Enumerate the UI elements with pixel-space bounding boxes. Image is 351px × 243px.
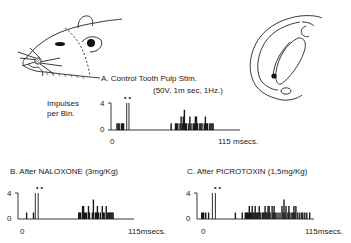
histogram-bar: [289, 213, 290, 220]
histogram-bar: [203, 213, 204, 220]
panel-a-params: (50V, 1m sec, 1Hz.): [153, 86, 223, 95]
histogram-bar: [302, 213, 303, 220]
panel-c-y-min: 0: [186, 214, 190, 223]
panel-c-x-end: 115msecs.: [305, 227, 343, 236]
histogram-bar: [212, 193, 213, 219]
panel-a-stim-markers: • •: [124, 93, 131, 102]
histogram-bar: [186, 123, 187, 130]
histogram-bar: [100, 213, 101, 220]
rat-eye-shape: [55, 42, 65, 46]
histogram-bar: [38, 193, 39, 219]
histogram-bar: [197, 123, 198, 130]
recording-site-marker: [271, 73, 276, 78]
histogram-bar: [285, 206, 286, 219]
histogram-bar: [304, 213, 305, 220]
histogram-bar: [26, 213, 27, 220]
panel-a-y-max: 4: [100, 99, 104, 108]
figure-canvas: [0, 0, 351, 243]
histogram-bar: [89, 213, 90, 220]
panel-c-title: C. After PICROTOXIN (1,5mg/Kg): [187, 167, 307, 176]
histogram-bar: [275, 213, 276, 220]
histogram-bar: [279, 213, 280, 220]
histogram-a-axes: [108, 103, 240, 130]
y-axis-label-line1: Impulses: [47, 99, 79, 108]
panel-b-y-min: 0: [7, 214, 11, 223]
histogram-bar: [207, 123, 208, 130]
histogram-bar: [215, 193, 216, 219]
histogram-bar: [260, 213, 261, 220]
histogram-bar: [176, 123, 177, 130]
histogram-bar: [242, 213, 243, 220]
panel-b-stim-markers: • •: [36, 183, 43, 192]
histogram-bar: [98, 213, 99, 220]
panel-a-x-start: 0: [110, 137, 114, 146]
histogram-bar: [212, 123, 213, 130]
panel-a-title: A. Control Tooth Pulp Stim.: [101, 74, 197, 83]
histogram-bar: [208, 213, 209, 220]
panel-c-x-start: 0: [201, 227, 205, 236]
panel-b-x-start: 0: [20, 227, 24, 236]
histogram-bar: [104, 213, 105, 220]
histogram-bar: [306, 213, 307, 220]
histogram-bar: [297, 213, 298, 220]
histogram-bar: [93, 200, 94, 220]
histogram-bar: [177, 123, 178, 130]
histogram-bar: [86, 213, 87, 220]
rat-head-drawing: [18, 16, 122, 79]
histogram-bar: [33, 213, 34, 220]
histogram-bar: [119, 123, 120, 130]
histogram-bar: [170, 123, 171, 130]
histogram-bar: [123, 123, 124, 130]
histogram-bar: [269, 213, 270, 220]
histogram-a-bars: [116, 103, 213, 130]
rat-eye-socket-mark: [87, 39, 95, 47]
panel-a-y-min: 0: [100, 125, 104, 134]
histogram-bar: [80, 213, 81, 220]
histogram-bar: [277, 213, 278, 220]
histogram-bar: [112, 213, 113, 220]
panel-c-y-max: 4: [186, 189, 190, 198]
histogram-bar: [190, 123, 191, 130]
panel-b-x-end: 115msecs.: [128, 227, 166, 236]
panel-b-y-max: 4: [7, 189, 11, 198]
panel-a-x-end: 115 msecs.: [218, 137, 258, 146]
panel-c-stim-markers: • •: [214, 183, 221, 192]
panel-b-title: B. After NALOXONE (3mg/Kg): [10, 167, 118, 176]
histogram-bar: [205, 213, 206, 220]
brain-section-drawing: [250, 16, 322, 101]
histogram-bar: [309, 213, 310, 220]
histogram-bar: [201, 123, 202, 130]
histogram-bar: [126, 103, 127, 130]
histogram-bar: [35, 193, 36, 219]
histogram-bar: [235, 213, 236, 220]
histogram-b-bars: [26, 193, 114, 219]
histogram-bar: [129, 103, 130, 130]
histogram-c-bars: [201, 193, 310, 219]
histogram-bar: [295, 206, 296, 219]
y-axis-label-line2: per Bin.: [47, 109, 75, 118]
histogram-bar: [299, 213, 300, 220]
